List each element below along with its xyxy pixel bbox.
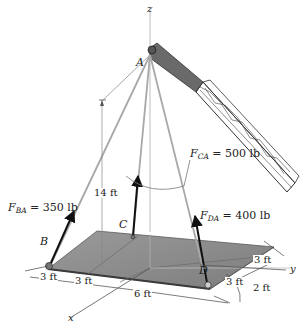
point-c-label: C <box>119 219 127 230</box>
crane-boom <box>148 43 299 192</box>
dim-y-span: 6 ft <box>133 289 152 299</box>
y-axis-label: y <box>290 264 296 274</box>
arrow-fca <box>133 176 138 236</box>
dim-d-offset: 2 ft <box>252 283 271 293</box>
angle-arc <box>126 176 184 189</box>
force-label-fda: FDA = 400 lb <box>200 210 270 221</box>
point-d-label: D <box>199 265 208 276</box>
dim-x-right: 3 ft <box>74 276 93 286</box>
dim-d-lower: 3 ft <box>225 277 244 287</box>
dim-d-upper: 3 ft <box>253 255 272 265</box>
dim-x-left: 3 ft <box>39 272 58 282</box>
force-label-fba: FBA = 350 lb <box>8 202 78 213</box>
point-b-label: B <box>40 236 48 247</box>
point-a-label: A <box>136 57 144 68</box>
dim-height: 14 ft <box>93 188 119 198</box>
z-axis-label: z <box>147 4 152 14</box>
x-axis-label: x <box>68 313 74 323</box>
force-label-fca: FCA = 500 lb <box>190 148 260 159</box>
